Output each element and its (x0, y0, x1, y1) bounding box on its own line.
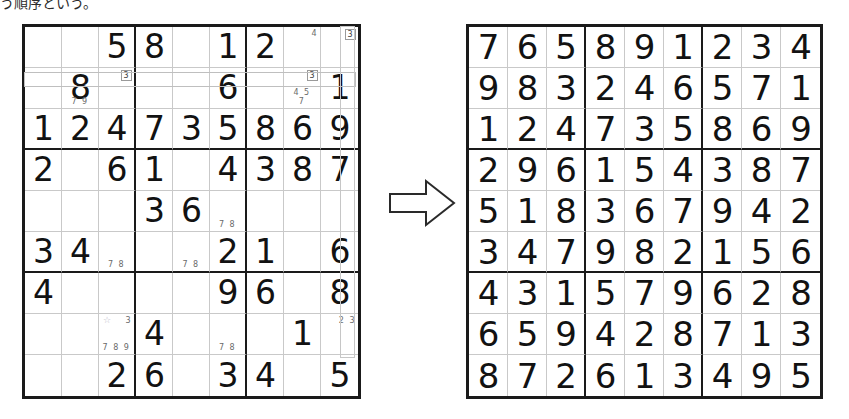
solution-cell[interactable]: 5 (586, 273, 625, 314)
puzzle-cell[interactable]: 9 (210, 273, 247, 314)
puzzle-cell[interactable]: 3 (99, 68, 136, 109)
puzzle-cell[interactable]: 6 (247, 273, 284, 314)
solution-cell[interactable]: 8 (586, 27, 625, 68)
puzzle-cell[interactable] (247, 68, 284, 109)
solution-cell[interactable]: 3 (625, 109, 664, 150)
puzzle-cell[interactable] (62, 355, 99, 396)
puzzle-cell[interactable]: 2 (62, 109, 99, 150)
puzzle-cell[interactable] (99, 191, 136, 232)
puzzle-cell[interactable]: 9 (321, 109, 358, 150)
puzzle-cell[interactable] (25, 191, 62, 232)
puzzle-cell[interactable]: 34 5 7 (284, 68, 321, 109)
solution-cell[interactable]: 1 (586, 150, 625, 191)
solution-cell[interactable]: 8 (781, 273, 820, 314)
solution-cell[interactable]: 2 (586, 68, 625, 109)
solution-cell[interactable]: 4 (664, 150, 703, 191)
puzzle-cell[interactable] (247, 191, 284, 232)
solution-cell[interactable]: 3 (586, 191, 625, 232)
puzzle-cell[interactable]: 87 9 (62, 68, 99, 109)
puzzle-cell[interactable]: 1 (321, 68, 358, 109)
puzzle-cell[interactable]: 3 (321, 27, 358, 68)
solution-cell[interactable]: 5 (508, 314, 547, 355)
solution-cell[interactable]: 7 (469, 27, 508, 68)
puzzle-cell[interactable]: 6 (136, 355, 173, 396)
solution-cell[interactable]: 4 (586, 314, 625, 355)
solution-cell[interactable]: 5 (664, 109, 703, 150)
puzzle-cell[interactable] (136, 232, 173, 273)
puzzle-cell[interactable]: 4 (25, 273, 62, 314)
puzzle-cell[interactable]: 2 3 (321, 314, 358, 355)
solution-cell[interactable]: 3 (781, 314, 820, 355)
solution-cell[interactable]: 6 (781, 232, 820, 273)
solution-cell[interactable]: 5 (469, 191, 508, 232)
solution-cell[interactable]: 1 (781, 68, 820, 109)
solution-cell[interactable]: 7 (508, 355, 547, 396)
solution-cell[interactable]: 7 (586, 109, 625, 150)
solution-cell[interactable]: 4 (469, 273, 508, 314)
solution-cell[interactable]: 2 (469, 150, 508, 191)
puzzle-cell[interactable]: 6 (210, 68, 247, 109)
solution-cell[interactable]: 2 (703, 27, 742, 68)
solution-cell[interactable]: 6 (664, 68, 703, 109)
solution-cell[interactable]: 1 (547, 273, 586, 314)
puzzle-cell[interactable]: 1 (284, 314, 321, 355)
solution-cell[interactable]: 2 (742, 273, 781, 314)
solution-grid[interactable]: 7658912349832465711247358692961543875183… (466, 24, 823, 399)
puzzle-cell[interactable]: 4 (99, 109, 136, 150)
puzzle-cell[interactable]: 7 (321, 150, 358, 191)
solution-cell[interactable]: 7 (664, 191, 703, 232)
puzzle-cell[interactable] (62, 150, 99, 191)
puzzle-cell[interactable] (284, 191, 321, 232)
puzzle-cell[interactable] (25, 355, 62, 396)
solution-cell[interactable]: 5 (625, 150, 664, 191)
solution-cell[interactable]: 8 (742, 150, 781, 191)
puzzle-cell[interactable] (62, 314, 99, 355)
solution-cell[interactable]: 7 (781, 150, 820, 191)
solution-cell[interactable]: 9 (742, 355, 781, 396)
puzzle-cell[interactable]: 5 (321, 355, 358, 396)
solution-cell[interactable]: 7 (547, 232, 586, 273)
solution-cell[interactable]: 3 (703, 150, 742, 191)
solution-cell[interactable]: 8 (508, 68, 547, 109)
puzzle-cell[interactable] (321, 191, 358, 232)
puzzle-cell[interactable]: 8 (247, 109, 284, 150)
solution-cell[interactable]: 1 (742, 314, 781, 355)
puzzle-grid[interactable]: 58124387 93634 5 711247358692614387367 8… (22, 24, 361, 399)
puzzle-cell[interactable]: 1 (136, 150, 173, 191)
puzzle-cell[interactable] (25, 314, 62, 355)
solution-cell[interactable]: 6 (586, 355, 625, 396)
solution-cell[interactable]: 2 (625, 314, 664, 355)
puzzle-cell[interactable]: 4 (136, 314, 173, 355)
solution-cell[interactable]: 1 (469, 109, 508, 150)
puzzle-cell[interactable] (136, 68, 173, 109)
puzzle-cell[interactable] (173, 68, 210, 109)
puzzle-cell[interactable]: 4 (284, 27, 321, 68)
puzzle-cell[interactable]: 3 (247, 150, 284, 191)
solution-cell[interactable]: 9 (586, 232, 625, 273)
puzzle-cell[interactable] (173, 273, 210, 314)
solution-cell[interactable]: 9 (469, 68, 508, 109)
puzzle-cell[interactable]: 2 (247, 27, 284, 68)
puzzle-cell[interactable]: 4 (210, 150, 247, 191)
solution-cell[interactable]: 9 (664, 273, 703, 314)
solution-cell[interactable]: 9 (703, 191, 742, 232)
puzzle-cell[interactable] (284, 355, 321, 396)
puzzle-cell[interactable]: 2 (25, 150, 62, 191)
puzzle-cell[interactable] (62, 273, 99, 314)
puzzle-cell[interactable] (284, 273, 321, 314)
puzzle-cell[interactable] (247, 314, 284, 355)
solution-cell[interactable]: 9 (781, 109, 820, 150)
solution-cell[interactable]: 7 (625, 273, 664, 314)
puzzle-cell[interactable] (136, 273, 173, 314)
solution-cell[interactable]: 3 (742, 27, 781, 68)
puzzle-cell[interactable] (173, 314, 210, 355)
solution-cell[interactable]: 2 (547, 355, 586, 396)
puzzle-cell[interactable]: 6 (99, 150, 136, 191)
solution-cell[interactable]: 2 (781, 191, 820, 232)
solution-cell[interactable]: 8 (547, 191, 586, 232)
puzzle-cell[interactable] (62, 27, 99, 68)
puzzle-cell[interactable]: 7 (136, 109, 173, 150)
puzzle-cell[interactable] (173, 27, 210, 68)
solution-cell[interactable]: 8 (625, 232, 664, 273)
solution-cell[interactable]: 4 (508, 232, 547, 273)
